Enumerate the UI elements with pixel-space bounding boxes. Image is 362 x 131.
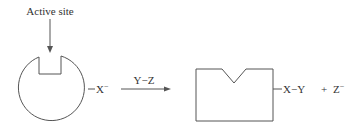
reactant-ligand-label: X− (96, 82, 109, 95)
enzyme-circle-shape (18, 56, 84, 121)
reaction-diagram: Active site X− Y−Z X−Y + Z− (0, 0, 362, 131)
product-ligand-label: X−Y (283, 83, 305, 95)
enzyme-box-shape (196, 69, 273, 121)
reaction-arrow-icon (121, 87, 171, 92)
reagent-label: Y−Z (134, 74, 155, 86)
byproduct-label: Z− (333, 82, 345, 95)
active-site-arrow-icon (47, 19, 53, 53)
active-site-label: Active site (26, 5, 73, 17)
plus-sign: + (321, 83, 327, 95)
